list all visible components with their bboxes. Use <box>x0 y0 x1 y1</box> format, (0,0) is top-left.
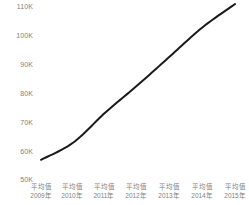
series-line-path <box>41 4 235 160</box>
x-axis-tick-stat: 平均值 <box>191 182 212 191</box>
x-axis-tick-year: 2009年 <box>30 191 51 200</box>
x-axis-tick-stat: 平均值 <box>224 182 245 191</box>
x-axis-tick-label: 平均值 2009年 <box>30 182 51 200</box>
series-line-svg <box>36 0 249 181</box>
x-axis-tick-year: 2014年 <box>191 191 212 200</box>
x-axis-tick-stat: 平均值 <box>94 182 115 191</box>
x-axis-tick-year: 2010年 <box>61 191 82 200</box>
y-axis-tick-label: 100K <box>16 32 33 40</box>
x-axis-tick-label: 平均值 2011年 <box>94 182 115 200</box>
y-axis-tick-label: 70K <box>20 119 33 127</box>
y-axis: 110K 100K 90K 80K 70K 60K 50K <box>0 0 36 205</box>
x-axis-tick-label: 平均值 2013年 <box>158 182 179 200</box>
x-axis-tick-stat: 平均值 <box>125 182 146 191</box>
y-axis-tick-label: 110K <box>17 3 33 11</box>
x-axis-tick-label: 平均值 2010年 <box>61 182 82 200</box>
x-axis-tick-year: 2011年 <box>94 191 115 200</box>
x-axis-tick-label: 平均值 2015年 <box>224 182 245 200</box>
x-axis: 平均值 2009年 平均值 2010年 平均值 2011年 平均值 2012年 … <box>36 181 249 205</box>
line-chart: 110K 100K 90K 80K 70K 60K 50K 平均值 2009年 … <box>0 0 249 205</box>
x-axis-tick-stat: 平均值 <box>30 182 51 191</box>
x-axis-tick-stat: 平均值 <box>61 182 82 191</box>
y-axis-tick-label: 80K <box>20 90 33 98</box>
y-axis-tick-label: 60K <box>20 148 33 156</box>
x-axis-tick-year: 2013年 <box>158 191 179 200</box>
x-axis-tick-label: 平均值 2014年 <box>191 182 212 200</box>
x-axis-tick-year: 2012年 <box>125 191 146 200</box>
x-axis-tick-label: 平均值 2012年 <box>125 182 146 200</box>
plot-area <box>36 0 249 181</box>
x-axis-tick-stat: 平均值 <box>158 182 179 191</box>
x-axis-tick-year: 2015年 <box>224 191 245 200</box>
y-axis-tick-label: 90K <box>20 61 33 69</box>
